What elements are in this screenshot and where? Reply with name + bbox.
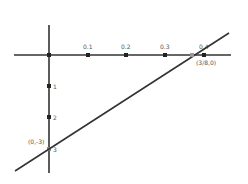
x-tick-0.3 [163,53,167,57]
y-intercept-label: (0,-3) [28,138,44,145]
x-tick-0.1 [86,53,90,57]
y-tick-1 [47,84,51,88]
x-tick-0.4 [202,53,206,57]
origin-marker [47,53,51,57]
y-tick-2 [47,115,51,119]
x-intercept-label: (3/8,0) [196,59,216,66]
y-tick-label-1: 1 [53,83,57,90]
x-tick-label-0.2: 0.2 [121,43,131,50]
x-tick-0.2 [124,53,128,57]
x-tick-label-0.1: 0.1 [83,43,93,50]
x-intercept-marker [190,53,194,57]
x-tick-label-0.3: 0.3 [160,43,170,50]
chart-canvas: 0.1 0.2 0.3 0.4 1 2 3 (0,-3) (3/8,0) [0,0,248,184]
y-tick-label-2: 2 [53,114,57,121]
